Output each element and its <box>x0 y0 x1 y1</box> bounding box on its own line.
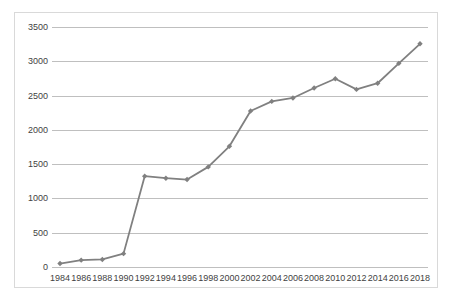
y-tick-label: 1500 <box>28 159 48 169</box>
y-tick-label: 500 <box>33 228 48 238</box>
x-tick-label: 2008 <box>304 272 324 284</box>
line-chart: 0500100015002000250030003500 19841986198… <box>0 0 452 308</box>
x-tick-label: 2004 <box>262 272 282 284</box>
x-tick-label: 2014 <box>368 272 388 284</box>
data-point-marker <box>100 257 105 262</box>
x-tick-label: 1994 <box>156 272 176 284</box>
data-point-marker <box>311 85 316 90</box>
y-tick-label: 1000 <box>28 193 48 203</box>
data-point-marker <box>78 257 83 262</box>
y-tick-label: 2500 <box>28 91 48 101</box>
plot-area <box>52 27 428 267</box>
y-tick-label: 3000 <box>28 56 48 66</box>
y-axis-labels: 0500100015002000250030003500 <box>14 27 48 267</box>
x-tick-label: 1988 <box>92 272 112 284</box>
x-tick-label: 2002 <box>241 272 261 284</box>
data-point-marker <box>163 176 168 181</box>
y-tick-label: 3500 <box>28 22 48 32</box>
data-point-marker <box>142 173 147 178</box>
x-tick-label: 2012 <box>346 272 366 284</box>
x-tick-label: 1992 <box>135 272 155 284</box>
series-line-0 <box>60 44 420 264</box>
x-tick-label: 2018 <box>410 272 430 284</box>
y-tick-label: 2000 <box>28 125 48 135</box>
x-tick-label: 1984 <box>50 272 70 284</box>
gridline-y-0 <box>52 267 428 268</box>
x-tick-label: 1996 <box>177 272 197 284</box>
x-axis-labels: 1984198619881990199219941996199820002002… <box>52 272 428 288</box>
x-tick-label: 1986 <box>71 272 91 284</box>
data-point-marker <box>121 251 126 256</box>
y-tick-label: 0 <box>43 262 48 272</box>
x-tick-label: 2016 <box>389 272 409 284</box>
x-tick-label: 2010 <box>325 272 345 284</box>
x-tick-label: 1998 <box>198 272 218 284</box>
data-point-marker <box>57 261 62 266</box>
series-line-layer <box>52 27 428 267</box>
x-tick-label: 2000 <box>219 272 239 284</box>
data-point-marker <box>269 99 274 104</box>
data-point-marker <box>290 95 295 100</box>
x-tick-label: 1990 <box>114 272 134 284</box>
x-tick-label: 2006 <box>283 272 303 284</box>
